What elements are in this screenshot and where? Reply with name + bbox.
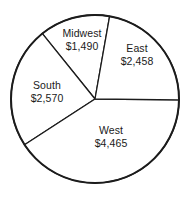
pie-chart-figure: Midwest $1,490 East $2,458 South $2,570 … <box>0 0 191 198</box>
slice-label-east: East $2,458 <box>108 42 166 68</box>
slice-label-midwest-value: $1,490 <box>49 40 115 53</box>
slice-label-midwest-name: Midwest <box>49 27 115 40</box>
slice-label-south-name: South <box>17 79 77 92</box>
slice-label-east-name: East <box>108 42 166 55</box>
slice-label-west: West $4,465 <box>79 124 143 150</box>
slice-label-west-name: West <box>79 124 143 137</box>
slice-label-south: South $2,570 <box>17 79 77 105</box>
slice-label-east-value: $2,458 <box>108 55 166 68</box>
slice-label-midwest: Midwest $1,490 <box>49 27 115 53</box>
slice-label-west-value: $4,465 <box>79 137 143 150</box>
slice-label-south-value: $2,570 <box>17 92 77 105</box>
